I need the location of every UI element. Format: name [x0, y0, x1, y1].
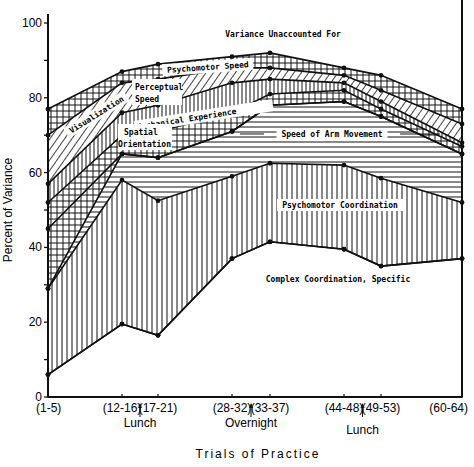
x-tick-label: (28-32): [213, 401, 252, 415]
y-tick-label: 60: [29, 166, 43, 180]
y-tick-label: 40: [29, 240, 43, 254]
x-tick-label: (60-64): [429, 401, 468, 415]
data-point: [120, 110, 125, 115]
data-point: [342, 163, 347, 168]
band-label-spatial-orientation-2: Orientation: [118, 139, 171, 149]
data-point: [379, 114, 384, 119]
data-point: [268, 239, 273, 244]
data-point: [342, 88, 347, 93]
data-point: [230, 174, 235, 179]
annotation-label: Lunch: [346, 423, 379, 437]
annotation-label: Overnight: [225, 416, 278, 430]
data-point: [120, 178, 125, 183]
data-point: [156, 198, 161, 203]
y-tick-label: 80: [29, 91, 43, 105]
x-tick-label: (49-53): [362, 401, 401, 415]
x-tick-label: (33-37): [251, 401, 290, 415]
x-tick-label: (12-16): [103, 401, 142, 415]
y-tick-label: 20: [29, 315, 43, 329]
data-point: [230, 80, 235, 85]
x-tick-label: (1-5): [36, 401, 61, 415]
data-point: [379, 264, 384, 269]
x-tick-label: (17-21): [139, 401, 178, 415]
data-point: [379, 73, 384, 78]
data-point: [156, 155, 161, 160]
data-point: [268, 92, 273, 97]
data-point: [120, 322, 125, 327]
data-point: [268, 51, 273, 56]
data-point: [379, 88, 384, 93]
data-point: [342, 80, 347, 85]
x-axis-title: Trials of Practice: [196, 447, 321, 461]
data-point: [342, 73, 347, 78]
data-point: [342, 247, 347, 252]
data-point: [342, 65, 347, 70]
data-point: [268, 65, 273, 70]
data-point: [230, 54, 235, 59]
data-point: [120, 152, 125, 157]
data-point: [230, 256, 235, 261]
band-label-variance-unaccounted-for: Variance Unaccounted For: [225, 29, 341, 39]
band-label-complex-coordination-specific: Complex Coordination, Specific: [266, 274, 411, 284]
band-label-perceptual-speed: Perceptual: [135, 83, 183, 92]
x-tick-label: (44-48): [325, 401, 364, 415]
data-point: [156, 333, 161, 338]
data-point: [379, 99, 384, 104]
data-point: [268, 77, 273, 82]
data-point: [268, 161, 273, 166]
band-label-psychomotor-coordination: Psychomotor Coordination: [282, 200, 398, 210]
data-point: [342, 99, 347, 104]
annotation-label: Lunch: [124, 416, 157, 430]
data-point: [379, 107, 384, 112]
y-axis-title: Percent of Variance: [1, 157, 15, 262]
stacked-area-chart: 020406080100(1-5)(12-16)(17-21)(28-32)(3…: [0, 0, 474, 467]
data-point: [120, 80, 125, 85]
data-point: [156, 62, 161, 67]
data-point: [379, 176, 384, 181]
y-tick-label: 100: [22, 16, 42, 30]
band-label-speed-of-arm-movement: Speed of Arm Movement: [281, 130, 382, 139]
data-point: [120, 69, 125, 74]
band-label-perceptual-speed-2: Speed: [135, 95, 159, 104]
band-label-spatial-orientation: Spatial: [124, 127, 158, 137]
data-point: [230, 129, 235, 134]
